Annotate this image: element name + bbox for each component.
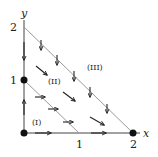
region-label-ii: (II)	[48, 77, 61, 86]
region-label-i: (I)	[32, 118, 41, 127]
arrow-region-ii-1	[36, 66, 47, 75]
equilibrium-2-0	[130, 130, 137, 137]
phase-portrait-diagram: y x 2 1 1 2 (I) (II) (III)	[0, 0, 158, 157]
x-axis-label: x	[143, 127, 150, 140]
arrow-region-ii-2	[63, 92, 75, 101]
x-tick-1: 1	[76, 138, 83, 151]
y-tick-1: 1	[10, 74, 17, 87]
x-tick-2: 2	[130, 138, 137, 151]
arrow-region-ii-3	[90, 117, 104, 125]
equilibrium-origin	[21, 130, 28, 137]
y-axis-label: y	[20, 7, 28, 20]
equilibrium-0-1	[21, 77, 28, 84]
y-tick-2: 2	[10, 21, 17, 34]
region-label-iii: (III)	[87, 63, 103, 72]
